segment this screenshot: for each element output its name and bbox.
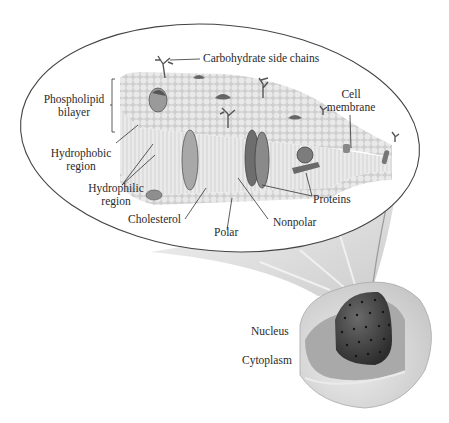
membrane-diagram: Carbohydrate side chains Phospholipid bi… — [0, 0, 449, 423]
label-phospholipid-line2: bilayer — [38, 106, 110, 119]
label-proteins: Proteins — [313, 193, 351, 206]
label-hydrophilic-region: Hydrophilic region — [80, 182, 152, 208]
cell-illustration — [300, 282, 431, 408]
label-hydrophilic-line1: Hydrophilic — [80, 182, 152, 195]
protein — [297, 147, 313, 163]
label-hydrophobic-line2: region — [45, 160, 117, 173]
label-cell-membrane-line2: membrane — [320, 101, 382, 114]
label-phospholipid-line1: Phospholipid — [38, 93, 110, 106]
label-cholesterol: Cholesterol — [128, 213, 181, 226]
label-hydrophilic-line2: region — [80, 195, 152, 208]
label-cytoplasm: Cytoplasm — [242, 354, 292, 367]
label-phospholipid-bilayer: Phospholipid bilayer — [38, 93, 110, 119]
label-cell-membrane: Cell membrane — [320, 88, 382, 114]
protein — [255, 132, 269, 188]
label-hydrophobic-region: Hydrophobic region — [45, 147, 117, 173]
label-polar: Polar — [214, 226, 238, 239]
label-hydrophobic-line1: Hydrophobic — [45, 147, 117, 160]
label-carbohydrate-side-chains: Carbohydrate side chains — [203, 52, 319, 65]
label-cell-membrane-line1: Cell — [320, 88, 382, 101]
label-nonpolar: Nonpolar — [273, 216, 316, 229]
protein — [182, 130, 198, 190]
label-nucleus: Nucleus — [251, 325, 289, 338]
